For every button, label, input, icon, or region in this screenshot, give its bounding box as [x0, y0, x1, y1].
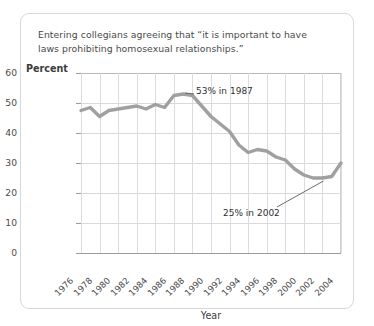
x-axis-tick-label: 1978 [71, 275, 94, 298]
x-axis-tick-label: 2002 [294, 275, 317, 298]
x-axis-tick-label: 1990 [183, 275, 206, 298]
x-axis-tick-label: 1988 [164, 275, 187, 298]
annotation-low-label: 25% in 2002 [223, 208, 280, 218]
data-series-line [81, 73, 343, 255]
x-axis-tick-label: 1992 [201, 275, 224, 298]
y-axis-tick-label: 50 [0, 97, 17, 108]
x-axis-tick-label: 1980 [90, 275, 113, 298]
plot-area: 0102030405060 19761978198019821984198619… [81, 73, 341, 253]
figure-card: Entering collegians agreeing that “it is… [20, 13, 354, 309]
annotation-peak-label: 53% in 1987 [196, 86, 253, 96]
x-axis-tick-label: 1984 [127, 275, 150, 298]
x-axis-title: Year [81, 310, 341, 321]
x-axis-tick-label: 1994 [220, 275, 243, 298]
y-axis-tick-label: 30 [0, 157, 17, 168]
chart-title: Entering collegians agreeing that “it is… [38, 28, 328, 55]
x-axis-tick-label: 1996 [238, 275, 261, 298]
y-axis-tick-label: 0 [0, 247, 17, 258]
y-axis-tick-label: 10 [0, 217, 17, 228]
series-polyline [81, 94, 341, 178]
x-axis-tick-label: 1976 [53, 275, 76, 298]
x-axis-tick-label: 1986 [146, 275, 169, 298]
x-axis-tick-label: 1982 [108, 275, 131, 298]
y-axis-tick-label: 20 [0, 187, 17, 198]
annotation-leader-low [277, 181, 323, 207]
y-axis-tick-label: 60 [0, 67, 17, 78]
x-axis-tick-label: 1998 [257, 275, 280, 298]
y-axis-label: Percent [26, 63, 68, 74]
x-axis-tick-label: 2004 [313, 275, 336, 298]
x-axis-tick-label: 2000 [276, 275, 299, 298]
y-axis-tick-label: 40 [0, 127, 17, 138]
